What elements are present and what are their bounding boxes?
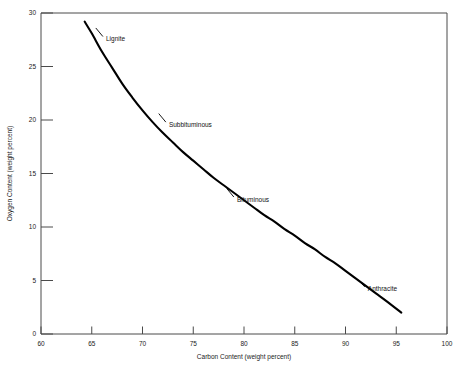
x-tick-label: 85 xyxy=(291,340,299,347)
y-tick-label: 25 xyxy=(29,63,37,70)
annotation-leader-line xyxy=(96,28,103,37)
coal-rank-line-chart: 6065707580859095100 051015202530 Carbon … xyxy=(0,0,468,365)
x-tick-label: 80 xyxy=(240,340,248,347)
page-footer-artifact xyxy=(300,355,468,364)
coal-rank-label: Bituminous xyxy=(237,196,270,203)
series-annotations-group: LigniteSubbituminousBituminousAnthracite xyxy=(96,28,398,292)
annotation-leader-line xyxy=(159,114,166,123)
y-tick-label: 0 xyxy=(32,330,36,337)
y-tick-label: 5 xyxy=(32,277,36,284)
x-axis-tick-marks xyxy=(41,327,447,335)
y-tick-label: 20 xyxy=(29,116,37,123)
x-tick-label: 75 xyxy=(190,340,198,347)
x-tick-label: 65 xyxy=(88,340,96,347)
chart-container: 6065707580859095100 051015202530 Carbon … xyxy=(0,0,468,365)
y-axis-tick-marks xyxy=(41,13,53,334)
coal-rank-label: Lignite xyxy=(106,35,126,43)
x-axis-title: Carbon Content (weight percent) xyxy=(197,353,291,361)
y-axis-tick-labels: 051015202530 xyxy=(29,9,37,337)
coal-rank-label: Anthracite xyxy=(368,285,398,292)
coal-rank-label: Subbituminous xyxy=(169,121,213,128)
x-axis-tick-labels: 6065707580859095100 xyxy=(37,340,452,347)
coalification-curve xyxy=(85,22,402,313)
x-tick-label: 95 xyxy=(393,340,401,347)
y-tick-label: 10 xyxy=(29,223,37,230)
y-axis-title: Oxygen Content (weight percent) xyxy=(6,126,14,221)
x-tick-label: 70 xyxy=(139,340,147,347)
x-tick-label: 60 xyxy=(37,340,45,347)
data-series-group xyxy=(85,22,402,313)
x-tick-label: 100 xyxy=(442,340,453,347)
y-tick-label: 30 xyxy=(29,9,37,16)
x-tick-label: 90 xyxy=(342,340,350,347)
y-tick-label: 15 xyxy=(29,170,37,177)
